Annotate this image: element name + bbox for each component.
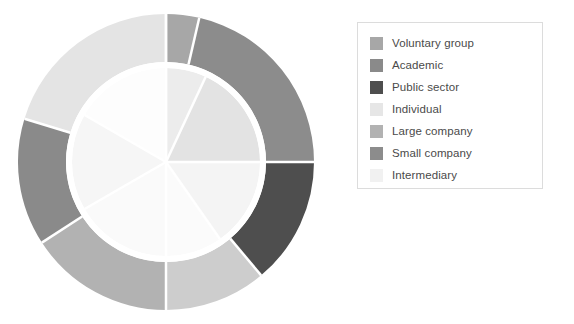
legend-swatch-icon <box>370 125 383 138</box>
legend-item-label: Public sector <box>392 76 459 98</box>
legend-item-voluntary-group[interactable]: Voluntary group <box>370 32 542 54</box>
chart-legend: Voluntary group Academic Public sector I… <box>357 22 543 189</box>
figure-canvas: Voluntary group Academic Public sector I… <box>0 0 574 324</box>
legend-swatch-icon <box>370 147 383 160</box>
legend-item-public-sector[interactable]: Public sector <box>370 76 542 98</box>
legend-swatch-icon <box>370 81 383 94</box>
legend-item-small-company[interactable]: Small company <box>370 142 542 164</box>
legend-item-label: Small company <box>392 142 472 164</box>
legend-item-individual[interactable]: Individual <box>370 98 542 120</box>
legend-swatch-icon <box>370 103 383 116</box>
legend-swatch-icon <box>370 59 383 72</box>
legend-item-label: Voluntary group <box>392 32 474 54</box>
legend-swatch-icon <box>370 37 383 50</box>
legend-item-label: Intermediary <box>392 164 457 186</box>
legend-item-label: Academic <box>392 54 443 76</box>
legend-swatch-icon <box>370 169 383 182</box>
legend-item-large-company[interactable]: Large company <box>370 120 542 142</box>
legend-item-intermediary[interactable]: Intermediary <box>370 164 542 186</box>
legend-item-label: Large company <box>392 120 473 142</box>
donut-chart-svg <box>8 2 328 322</box>
donut-chart-area <box>8 2 328 322</box>
legend-item-label: Individual <box>392 98 442 120</box>
legend-item-academic[interactable]: Academic <box>370 54 542 76</box>
